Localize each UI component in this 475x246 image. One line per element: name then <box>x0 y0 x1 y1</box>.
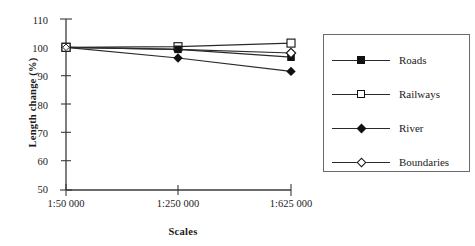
legend-swatch-railways <box>332 87 390 101</box>
x-tick-label-2: 1:250 000 <box>138 198 218 209</box>
legend-swatch-boundaries <box>332 155 390 169</box>
filled-square-marker-icon <box>357 56 365 64</box>
chart-figure: Length change (%) 110 100 90 80 70 60 50 <box>0 0 475 246</box>
legend-swatch-river <box>332 121 390 135</box>
legend-label-river: River <box>390 122 423 134</box>
filled-diamond-marker-icon <box>356 123 366 133</box>
legend-item-railways: Railways <box>332 82 464 106</box>
x-axis-title: Scales <box>128 226 238 237</box>
legend-item-river: River <box>332 116 464 140</box>
legend-label-railways: Railways <box>390 88 440 100</box>
open-square-marker-icon <box>357 90 365 98</box>
open-diamond-marker-icon <box>356 157 366 167</box>
legend-label-roads: Roads <box>390 54 427 66</box>
legend-item-boundaries: Boundaries <box>332 150 464 174</box>
legend-label-boundaries: Boundaries <box>390 156 449 168</box>
chart-legend: Roads Railways River Boundaries <box>323 34 470 172</box>
origin-overlap-marker <box>62 43 70 51</box>
x-tick-label-3: 1:625 000 <box>251 198 331 209</box>
legend-swatch-roads <box>332 53 390 67</box>
x-tick-label-1: 1:50 000 <box>26 198 106 209</box>
legend-item-roads: Roads <box>332 48 464 72</box>
